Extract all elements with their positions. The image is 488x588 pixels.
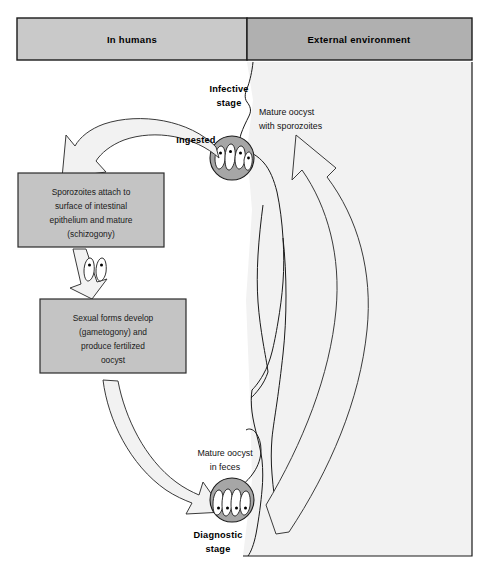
sporozoite-group-feces	[213, 489, 250, 516]
diagnostic-stage-label-line-1: Diagnostic	[194, 530, 243, 540]
ingested-label: Ingested	[176, 135, 215, 145]
schizogony-box-line-4: (schizogony)	[67, 229, 115, 239]
mature-oocyst-feces-label-line-1: Mature oocyst	[197, 448, 253, 458]
mature-oocyst-sporozoites-label-line-2: with sporozoites	[258, 121, 323, 131]
gametogony-box-line-4: oocyst	[101, 355, 126, 365]
diagnostic-stage-label-line-2: stage	[205, 544, 230, 554]
feces-oocyst	[210, 478, 254, 522]
schizogony-box-line-3: epithelium and mature	[50, 215, 133, 225]
infective-stage-label-line-2: stage	[216, 98, 241, 108]
schizogony-box-line-2: surface of intestinal	[55, 201, 127, 211]
gametogony-box-line-3: produce fertilized	[81, 341, 145, 351]
excretion-arrow	[103, 380, 224, 514]
infective-stage-label-line-1: Infective	[209, 84, 248, 94]
header-label-in-humans: In humans	[107, 34, 157, 45]
gametogony-box-line-1: Sexual forms develop	[73, 313, 154, 323]
schizogony-box-line-1: Sporozoites attach to	[52, 187, 131, 197]
life-cycle-diagram: In humans External environment	[0, 0, 488, 588]
ingestion-arrow	[62, 119, 219, 178]
ingested-oocyst	[210, 136, 254, 180]
figure-canvas: In humans External environment	[0, 0, 488, 588]
gametogony-box-line-2: (gametogony) and	[79, 327, 147, 337]
mature-oocyst-feces-label-line-2: in feces	[210, 462, 241, 472]
header-label-external-environment: External environment	[307, 34, 411, 45]
mature-oocyst-sporozoites-label-line-1: Mature oocyst	[259, 107, 315, 117]
